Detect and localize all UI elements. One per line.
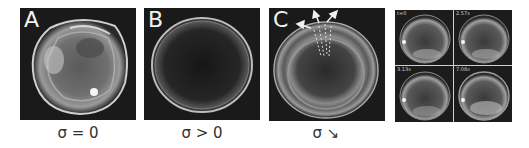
time-frame: 2.57s (454, 10, 512, 65)
caption-c: σ ↘ (266, 124, 386, 142)
panel-label-a: A (24, 8, 39, 32)
time-label: 7.08s (456, 66, 470, 73)
time-label: t=0 (397, 10, 406, 17)
caption-b: σ > 0 (142, 124, 262, 142)
caption-a: σ = 0 (18, 124, 138, 142)
panel-label-c: C (273, 8, 288, 32)
vesicle-frame-image (395, 66, 453, 122)
vesicle-frame-image (395, 10, 453, 65)
time-frame: t=0 (395, 10, 453, 65)
time-frame: 3.13s (395, 66, 453, 122)
vesicle-frame-image (454, 10, 512, 65)
panel-a: A (20, 8, 136, 120)
vesicle-frame-image (454, 66, 512, 122)
time-label: 2.57s (456, 10, 470, 17)
panel-c: C (269, 8, 385, 121)
panel-label-b: B (148, 8, 163, 32)
time-series-panel: t=0 2.57s 3.13s 7.08s (395, 10, 512, 122)
time-frame: 7.08s (454, 66, 512, 122)
panel-b: B (144, 8, 260, 120)
time-label: 3.13s (397, 66, 411, 73)
